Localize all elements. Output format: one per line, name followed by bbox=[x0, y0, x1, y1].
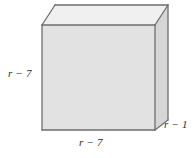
right-face bbox=[155, 5, 168, 130]
label-width: r − 7 bbox=[79, 137, 103, 148]
label-height: r − 7 bbox=[8, 68, 32, 79]
top-face bbox=[42, 5, 168, 25]
prism-svg bbox=[0, 0, 193, 158]
label-depth: r − 1 bbox=[164, 119, 188, 130]
front-face bbox=[42, 25, 155, 130]
prism-figure: r − 7 r − 7 r − 1 bbox=[0, 0, 193, 158]
